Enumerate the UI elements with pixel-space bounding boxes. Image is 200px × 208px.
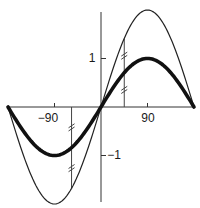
y-tick-label-neg1: −1	[107, 148, 121, 162]
x-tick-label-neg90: −90	[38, 111, 59, 125]
sine-chart: −90 90 1 −1	[0, 0, 200, 208]
y-tick-label-1: 1	[89, 51, 96, 65]
x-tick-label-90: 90	[141, 111, 155, 125]
